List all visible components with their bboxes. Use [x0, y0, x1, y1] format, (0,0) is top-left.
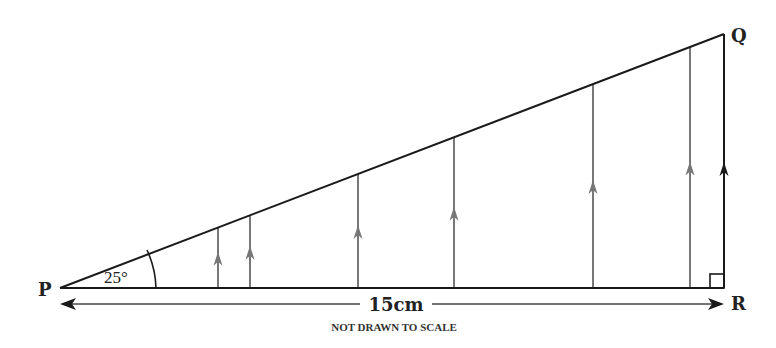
angle-arc-p	[147, 250, 156, 288]
vertex-label-p: P	[38, 279, 52, 300]
parallel-vertical-lines	[214, 47, 695, 288]
angle-label: 25°	[104, 268, 128, 287]
right-angle-marker	[710, 274, 724, 288]
vertex-label-r: R	[731, 293, 747, 314]
base-length-label: 15cm	[368, 294, 423, 315]
triangle-diagram: 25° P Q R 15cm NOT DRAWN TO SCALE	[0, 0, 776, 348]
vertex-label-q: Q	[731, 25, 747, 46]
side-pq-hypotenuse	[60, 34, 724, 288]
not-to-scale-note: NOT DRAWN TO SCALE	[331, 321, 457, 333]
